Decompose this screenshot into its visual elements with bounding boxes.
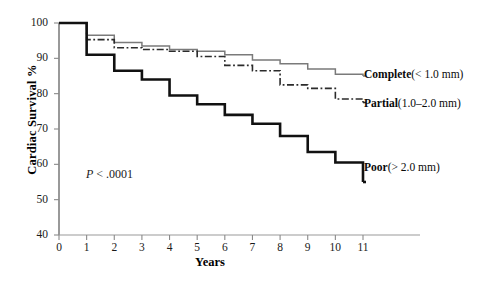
series-label-complete-name: Complete [364,68,411,80]
x-axis-title: Years [150,255,270,270]
x-tick-label: 9 [299,241,317,253]
x-tick-label: 1 [78,241,96,253]
x-tick-label: 0 [50,241,68,253]
series-line-complete [59,23,363,76]
x-tick-label: 5 [188,241,206,253]
series-line-poor [59,23,363,182]
x-tick-label: 10 [326,241,344,253]
y-tick-label: 40 [22,228,48,240]
y-tick-label: 100 [22,16,48,28]
x-tick-label: 2 [105,241,123,253]
x-tick-label: 4 [161,241,179,253]
series-label-poor: Poor(> 2.0 mm) [364,161,440,173]
series-label-partial-name: Partial [364,97,398,109]
series-label-partial-detail: (1.0–2.0 mm) [398,97,461,109]
x-tick-label: 8 [271,241,289,253]
x-tick-label: 11 [354,241,372,253]
x-tick-label: 7 [243,241,261,253]
x-tick-label: 3 [133,241,151,253]
series-label-poor-detail: (> 2.0 mm) [388,161,440,173]
series-label-complete-detail: (< 1.0 mm) [411,68,463,80]
survival-chart-figure: 100908070605040 01234567891011 Cardiac S… [0,0,492,281]
series-label-poor-name: Poor [364,161,388,173]
p-value-rest: < .0001 [93,167,133,181]
p-value-annotation: P < .0001 [86,167,133,182]
plot-area [0,0,492,281]
series-label-partial: Partial(1.0–2.0 mm) [364,97,461,109]
series-step-lines [59,23,363,182]
y-axis-title: Cardiac Survival % [25,40,40,200]
series-label-complete: Complete(< 1.0 mm) [364,68,463,80]
x-tick-marks [59,235,363,240]
x-tick-label: 6 [216,241,234,253]
y-tick-marks [54,23,59,235]
